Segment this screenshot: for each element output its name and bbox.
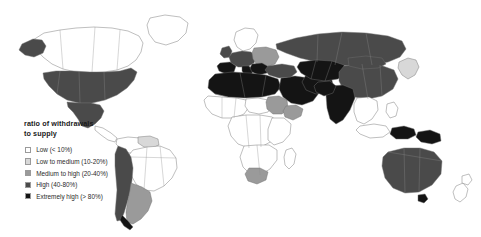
region-indonesia-east xyxy=(390,126,416,139)
legend-label-extremely-high: Extremely high (> 80%) xyxy=(36,193,103,200)
legend-item-high: High (40-80%) xyxy=(25,179,148,191)
region-greenland xyxy=(147,15,188,45)
world-water-stress-map: ratio of withdrawals to supply Low (< 10… xyxy=(0,0,481,237)
legend-swatch-medium-to-high xyxy=(25,170,31,176)
region-new-guinea xyxy=(416,130,441,144)
legend-label-medium-to-high: Medium to high (20-40%) xyxy=(36,170,108,177)
region-southeast-asia xyxy=(354,97,378,124)
legend-item-extremely-high: Extremely high (> 80%) xyxy=(25,191,148,203)
legend-title-line-1: ratio of withdrawals xyxy=(24,119,148,129)
legend-swatch-high xyxy=(25,182,31,188)
region-south-africa xyxy=(245,168,268,184)
region-new-zealand xyxy=(453,183,468,202)
region-north-africa xyxy=(208,72,281,98)
map-legend: ratio of withdrawals to supply Low (< 10… xyxy=(22,119,148,202)
legend-label-high: High (40-80%) xyxy=(36,181,77,188)
region-east-africa xyxy=(268,118,291,145)
region-turkey xyxy=(265,64,297,78)
region-canada xyxy=(33,27,143,73)
legend-swatch-low-to-medium xyxy=(25,158,31,164)
region-indonesia-west xyxy=(356,124,390,138)
region-tasmania xyxy=(418,194,428,203)
legend-swatch-extremely-high xyxy=(25,193,31,199)
region-philippines xyxy=(386,102,398,118)
region-new-zealand-north xyxy=(462,174,472,185)
legend-item-low-to-medium: Low to medium (10-20%) xyxy=(25,156,148,168)
legend-label-low-to-medium: Low to medium (10-20%) xyxy=(36,158,107,165)
legend-swatch-low xyxy=(25,147,31,153)
region-australia xyxy=(382,148,442,193)
region-scandinavia xyxy=(234,28,258,51)
legend-label-low: Low (< 10%) xyxy=(36,146,72,153)
legend-title: ratio of withdrawals to supply xyxy=(24,119,148,138)
region-horn-of-africa xyxy=(283,105,303,120)
legend-item-low: Low (< 10%) xyxy=(25,144,148,156)
legend-title-line-2: to supply xyxy=(24,129,148,139)
region-west-africa xyxy=(204,96,249,118)
region-usa xyxy=(43,68,137,103)
region-korea-japan xyxy=(398,58,419,79)
legend-item-medium-to-high: Medium to high (20-40%) xyxy=(25,167,148,179)
region-madagascar xyxy=(284,148,296,169)
